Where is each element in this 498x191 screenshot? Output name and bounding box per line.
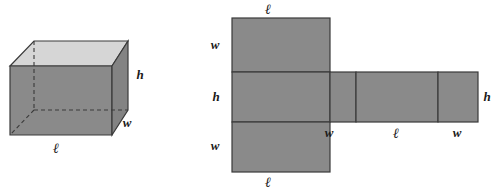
net-left-face <box>232 72 330 122</box>
prism-front-face <box>10 66 112 135</box>
net-strip-width-right-label: w <box>453 125 462 140</box>
net-top-face <box>232 18 330 72</box>
prism-length-label: ℓ <box>53 141 59 156</box>
net-middle-face-c <box>438 72 478 122</box>
net-strip-width-left-label: w <box>325 125 334 140</box>
prism-height-label: h <box>136 67 143 82</box>
prism-solid: h w ℓ <box>10 41 144 156</box>
prism-net: ℓ w h w ℓ w ℓ w h <box>211 2 491 190</box>
net-strip-length-label: ℓ <box>393 126 399 141</box>
net-left-lower-width-label: w <box>211 138 220 153</box>
net-left-upper-width-label: w <box>211 37 220 52</box>
net-top-length-label: ℓ <box>265 2 271 17</box>
figure-canvas: h w ℓ ℓ w h w ℓ w ℓ <box>0 0 498 191</box>
prism-top-face <box>10 41 128 66</box>
prism-width-label: w <box>123 115 132 130</box>
net-middle-face-b <box>356 72 438 122</box>
net-bottom-face <box>232 122 330 172</box>
net-left-height-label: h <box>212 89 219 104</box>
net-right-height-label: h <box>483 89 490 104</box>
net-bottom-length-label: ℓ <box>265 175 271 190</box>
geometry-figure: h w ℓ ℓ w h w ℓ w ℓ <box>0 0 498 191</box>
net-middle-face-a <box>330 72 356 122</box>
